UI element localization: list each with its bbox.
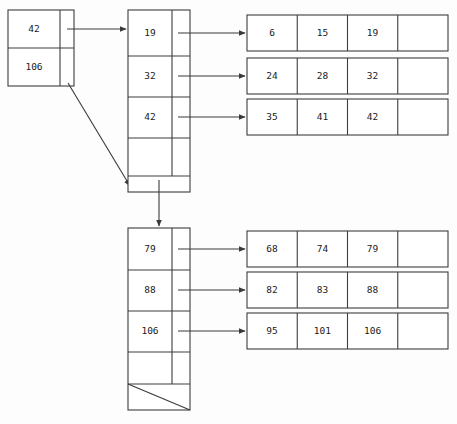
leaf-node-2[interactable]: 24 28 32 <box>247 58 448 94</box>
internal-left-box <box>128 10 190 192</box>
internal-right-box <box>128 228 190 410</box>
edge-root-to-internal-tail <box>68 83 130 186</box>
leaf-1-value-0: 6 <box>269 27 275 38</box>
internal-right-key-1: 88 <box>144 284 156 295</box>
leaf-6-value-0: 95 <box>266 325 277 336</box>
leaf-node-3[interactable]: 35 41 42 <box>247 99 448 135</box>
leaf-node-4[interactable]: 68 74 79 <box>247 231 448 267</box>
internal-right-key-2: 106 <box>141 325 158 336</box>
leaf-3-value-1: 41 <box>317 111 329 122</box>
internal-left-key-2: 42 <box>144 111 155 122</box>
leaf-1-value-1: 15 <box>317 27 328 38</box>
internal-right-key-0: 79 <box>144 243 156 254</box>
leaf-5-value-0: 82 <box>266 284 277 295</box>
leaf-2-value-0: 24 <box>266 70 278 81</box>
leaf-2-value-1: 28 <box>317 70 329 81</box>
root-node[interactable]: 42 106 <box>8 10 74 86</box>
leaf-6-value-1: 101 <box>314 325 331 336</box>
leaf-4-value-0: 68 <box>266 243 278 254</box>
leaf-node-6[interactable]: 95 101 106 <box>247 313 448 349</box>
leaf-node-5[interactable]: 82 83 88 <box>247 272 448 308</box>
leaf-3-value-0: 35 <box>266 111 277 122</box>
diagram-canvas: 42 106 19 32 42 <box>0 0 457 424</box>
internal-left-key-1: 32 <box>144 70 155 81</box>
leaf-2-value-2: 32 <box>367 70 378 81</box>
root-key-0: 42 <box>28 23 39 34</box>
b-tree-diagram: 42 106 19 32 42 <box>0 0 457 424</box>
leaf-5-value-1: 83 <box>317 284 328 295</box>
leaf-1-value-2: 19 <box>367 27 379 38</box>
internal-left-key-0: 19 <box>144 27 156 38</box>
leaf-3-value-2: 42 <box>367 111 378 122</box>
root-key-1: 106 <box>25 61 42 72</box>
leaf-4-value-1: 74 <box>317 243 329 254</box>
internal-node-left[interactable]: 19 32 42 <box>128 10 190 192</box>
leaf-4-value-2: 79 <box>367 243 379 254</box>
leaf-node-1[interactable]: 6 15 19 <box>247 15 448 51</box>
leaf-5-value-2: 88 <box>367 284 379 295</box>
internal-node-right[interactable]: 79 88 106 <box>128 228 190 410</box>
leaf-6-value-2: 106 <box>364 325 381 336</box>
